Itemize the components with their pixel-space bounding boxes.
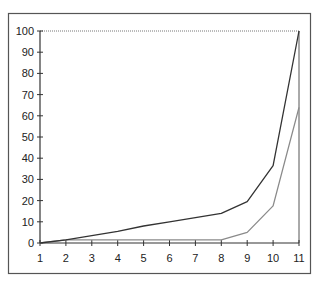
y-tick-label: 50: [22, 131, 34, 143]
y-tick-label: 0: [28, 237, 34, 249]
x-tick-label: 3: [89, 252, 95, 264]
y-tick-label: 70: [22, 89, 34, 101]
y-tick-label: 10: [22, 216, 34, 228]
y-tick-label: 100: [16, 25, 34, 37]
y-tick-label: 60: [22, 110, 34, 122]
x-tick-label: 7: [192, 252, 198, 264]
y-tick-label: 20: [22, 195, 34, 207]
x-tick-label: 5: [141, 252, 147, 264]
y-tick-label: 30: [22, 173, 34, 185]
x-tick-label: 2: [63, 252, 69, 264]
x-tick-label: 11: [293, 252, 304, 264]
y-tick-label: 80: [22, 67, 34, 79]
y-tick-label: 90: [22, 46, 34, 58]
y-tick-label: 40: [22, 152, 34, 164]
chart-canvas: 0102030405060708090100 1234567891011: [0, 0, 321, 287]
x-tick-label: 8: [218, 252, 224, 264]
x-tick-label: 1: [37, 252, 43, 264]
x-tick-label: 9: [244, 252, 250, 264]
x-tick-label: 6: [166, 252, 172, 264]
x-tick-label: 10: [267, 252, 279, 264]
x-tick-label: 4: [115, 252, 121, 264]
chart-frame: [9, 14, 311, 274]
line-chart: 0102030405060708090100 1234567891011: [0, 0, 321, 287]
